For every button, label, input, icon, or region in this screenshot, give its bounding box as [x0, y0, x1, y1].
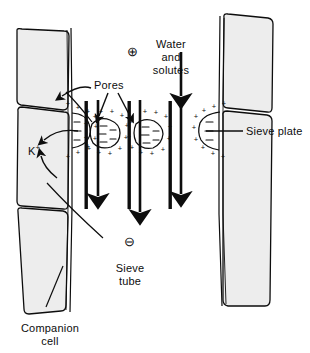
svg-text:+: + [150, 149, 155, 158]
companion-cell-label-line2: cell [8, 335, 92, 348]
svg-text:+: + [202, 106, 207, 115]
svg-text:+: + [84, 133, 89, 142]
potassium-ion-label: K+ [28, 142, 40, 157]
svg-text:+: + [66, 152, 71, 161]
svg-text:+: + [118, 144, 123, 153]
svg-text:+: + [194, 112, 199, 121]
svg-text:+: + [192, 123, 197, 132]
water-and-solutes-label-line3: solutes [143, 64, 199, 77]
companion-cell-top [17, 29, 69, 110]
svg-text:+: + [66, 99, 71, 108]
water-and-solutes-label-line1: Water [143, 38, 199, 51]
sieve-tube-label-line1: Sieve [104, 262, 156, 275]
svg-text:+: + [108, 149, 113, 158]
sieve-plate-wall-3 [169, 101, 172, 209]
sieve-tube-label-line2: tube [104, 275, 156, 288]
sieve-tube-diagram: ++ ++ ++ ++ + ++ ++ ++ ++ ++ + ++ ++ ++ … [0, 0, 310, 353]
svg-text:+: + [222, 99, 227, 108]
svg-text:+: + [84, 119, 89, 128]
svg-text:+: + [110, 107, 115, 116]
svg-text:+: + [168, 122, 173, 131]
svg-text:+: + [128, 118, 133, 127]
svg-text:+: + [76, 148, 81, 157]
pores-label: Pores [94, 79, 124, 92]
svg-text:+: + [130, 143, 135, 152]
right-cell-bottom [223, 111, 272, 306]
water-and-solutes-label-line2: and [143, 51, 199, 64]
companion-cell-bottom [18, 208, 68, 314]
negative-charge-symbol: ⊖ [118, 236, 142, 249]
svg-text:+: + [221, 152, 226, 161]
svg-text:+: + [201, 143, 206, 152]
sieve-tube-right-column [219, 14, 273, 306]
companion-cell-middle [17, 107, 69, 209]
companion-cell-outer-wall [70, 28, 72, 312]
svg-text:+: + [154, 108, 159, 117]
companion-cell-column [17, 28, 72, 314]
right-cell-outer-wall [219, 16, 222, 306]
sieve-plate-label: Sieve plate [246, 125, 303, 138]
svg-text:+: + [167, 134, 172, 143]
svg-text:+: + [120, 111, 125, 120]
positive-charge-symbol: ⊕ [121, 46, 145, 59]
svg-text:+: + [194, 135, 199, 144]
potassium-ion-label-base: K [28, 145, 36, 157]
svg-text:+: + [87, 144, 92, 153]
right-cell-top [223, 14, 273, 112]
svg-text:+: + [127, 132, 132, 141]
pores-leader-to-pore-1 [99, 93, 108, 116]
svg-text:+: + [161, 145, 166, 154]
svg-text:+: + [164, 112, 169, 121]
pore-membrane-2 [134, 120, 163, 149]
svg-text:+: + [211, 149, 216, 158]
companion-cell-label-line1: Companion [8, 322, 92, 335]
potassium-ion-label-charge: + [36, 143, 41, 152]
svg-text:+: + [143, 107, 148, 116]
svg-text:+: + [212, 102, 217, 111]
